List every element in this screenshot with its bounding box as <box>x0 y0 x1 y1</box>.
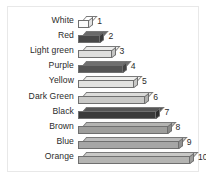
bar-front-face <box>78 65 123 73</box>
category-label: Orange <box>6 150 74 163</box>
chart-row: Black7 <box>0 105 206 120</box>
bar-side-face <box>156 107 160 118</box>
category-label: Yellow <box>6 74 74 87</box>
bar-3d <box>78 46 116 57</box>
bar-3d <box>78 92 149 103</box>
chart-row: Brown8 <box>0 120 206 135</box>
bar-3d <box>78 122 172 133</box>
category-label: Dark Green <box>6 90 74 103</box>
value-label: 9 <box>187 136 192 149</box>
value-label: 1 <box>97 15 102 28</box>
bar-front-face <box>78 156 190 164</box>
bar-side-face <box>123 62 127 73</box>
category-label: White <box>6 14 74 27</box>
category-label: Blue <box>6 135 74 148</box>
bar-side-face <box>100 32 104 43</box>
category-label: Red <box>6 29 74 42</box>
bar-front-face <box>78 50 112 58</box>
bar-3d <box>78 137 183 148</box>
value-label: 3 <box>120 45 125 58</box>
value-label: 6 <box>153 91 158 104</box>
bar-front-face <box>78 111 156 119</box>
bar-3d <box>78 107 160 118</box>
bar-3d <box>78 31 104 42</box>
chart-row: Yellow5 <box>0 74 206 89</box>
bar-side-face <box>112 47 116 58</box>
bar-front-face <box>78 80 134 88</box>
chart-row: Purple4 <box>0 59 206 74</box>
bar-front-face <box>78 96 145 104</box>
bar-side-face <box>145 92 149 103</box>
category-label: Brown <box>6 120 74 133</box>
bar-3d <box>78 76 138 87</box>
value-label: 4 <box>131 60 136 73</box>
chart-row: Red2 <box>0 29 206 44</box>
bar-3d <box>78 61 127 72</box>
chart-row: Blue9 <box>0 135 206 150</box>
category-label: Purple <box>6 59 74 72</box>
chart-row: Dark Green6 <box>0 90 206 105</box>
bar-chart-image: White1Red2Light green3Purple4Yellow5Dark… <box>0 0 206 179</box>
bar-front-face <box>78 141 179 149</box>
bar-side-face <box>89 17 93 28</box>
value-label: 5 <box>142 75 147 88</box>
bar-3d <box>78 16 93 27</box>
plot-area: White1Red2Light green3Purple4Yellow5Dark… <box>0 0 206 179</box>
category-label: Black <box>6 105 74 118</box>
bar-side-face <box>168 122 172 133</box>
category-label: Light green <box>6 44 74 57</box>
chart-row: Light green3 <box>0 44 206 59</box>
chart-row: Orange10 <box>0 150 206 165</box>
value-label: 2 <box>108 30 113 43</box>
bar-3d <box>78 152 194 163</box>
bar-side-face <box>179 137 183 148</box>
bar-front-face <box>78 126 168 134</box>
value-label: 8 <box>176 121 181 134</box>
value-label: 7 <box>164 106 169 119</box>
bar-side-face <box>134 77 138 88</box>
bar-front-face <box>78 35 100 43</box>
chart-row: White1 <box>0 14 206 29</box>
bar-side-face <box>190 153 194 164</box>
value-label: 10 <box>198 151 206 164</box>
bar-front-face <box>78 20 89 28</box>
